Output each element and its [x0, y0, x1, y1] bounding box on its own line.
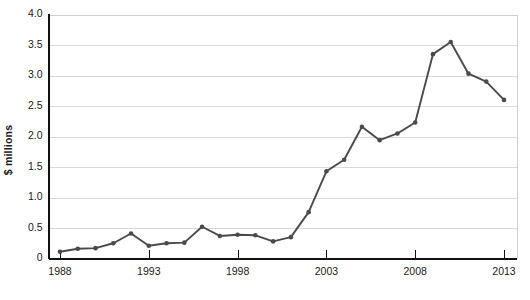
data-line [60, 42, 504, 252]
y-axis-tick-label: 0.5 [28, 221, 43, 233]
plot-border [49, 15, 518, 259]
data-point [431, 52, 436, 57]
x-axis-tick-label: 1998 [226, 265, 250, 277]
data-point [413, 120, 418, 125]
y-axis-tick-label: 1.0 [28, 190, 43, 202]
data-point [147, 243, 152, 248]
data-point [466, 71, 471, 76]
data-point [377, 138, 382, 143]
data-point [253, 233, 258, 238]
data-point [360, 124, 365, 129]
x-axis-tick-label: 1993 [137, 265, 161, 277]
data-point [200, 224, 205, 229]
data-point [235, 232, 240, 237]
chart-container: $ millions 4.03.53.02.52.01.51.00.50 198… [0, 0, 530, 300]
x-axis-ticks: 198819931998200320082013 [48, 250, 516, 277]
data-point [58, 249, 63, 254]
data-point [164, 241, 169, 246]
x-axis-tick-label: 2013 [492, 265, 516, 277]
data-point [448, 40, 453, 45]
data-point [129, 231, 134, 236]
y-axis-tick-label: 2.5 [28, 99, 43, 111]
y-axis-tick-label: 4.0 [28, 7, 43, 19]
data-point [289, 235, 294, 240]
x-axis-tick-label: 1988 [48, 265, 72, 277]
y-axis-tick-label: 3.5 [28, 38, 43, 50]
line-chart-svg: 4.03.53.02.52.01.51.00.50 19881993199820… [0, 0, 530, 300]
data-point [75, 246, 80, 251]
data-point [182, 240, 187, 245]
data-point [111, 241, 116, 246]
data-markers [58, 40, 507, 254]
data-point [271, 239, 276, 244]
gridlines [49, 16, 517, 229]
plot-area: 4.03.53.02.52.01.51.00.50 19881993199820… [0, 0, 530, 300]
data-point [218, 234, 223, 239]
data-point [342, 157, 347, 162]
y-axis-tick-label: 0 [37, 251, 43, 263]
y-axis-tick-label: 2.0 [28, 129, 43, 141]
y-axis-ticks: 4.03.53.02.52.01.51.00.50 [28, 7, 43, 263]
y-axis-tick-label: 1.5 [28, 160, 43, 172]
x-axis-tick-label: 2008 [404, 265, 428, 277]
data-point [502, 98, 507, 103]
data-point [324, 169, 329, 174]
data-point [484, 79, 489, 84]
axis-lines [49, 14, 517, 259]
data-point [93, 246, 98, 251]
data-point [395, 131, 400, 136]
data-point [306, 210, 311, 215]
x-axis-tick-label: 2003 [315, 265, 339, 277]
y-axis-tick-label: 3.0 [28, 68, 43, 80]
